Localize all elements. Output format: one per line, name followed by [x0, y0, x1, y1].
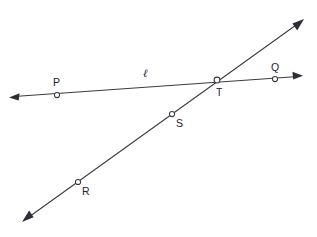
line-rst-arrowhead-lower-left: [22, 210, 34, 222]
line-label-l: ℓ: [143, 67, 148, 79]
point-marker-q: [272, 76, 277, 81]
point-label-q: Q: [271, 61, 279, 73]
line-rst-arrowhead-upper-right: [292, 19, 304, 31]
point-marker-s: [169, 111, 174, 116]
line-rst-group: [22, 19, 304, 222]
point-label-t: T: [216, 86, 223, 98]
point-label-r: R: [82, 185, 90, 197]
line-l-arrowhead-right: [292, 72, 303, 80]
geometry-diagram-canvas: P Q T S R ℓ: [0, 0, 317, 237]
point-marker-t: [214, 77, 220, 83]
line-l-arrowhead-left: [9, 93, 20, 100]
point-label-p: P: [53, 76, 60, 88]
point-label-s: S: [176, 117, 183, 129]
point-marker-r: [75, 179, 80, 184]
point-marker-p: [54, 92, 59, 97]
line-rst-segment: [28, 23, 299, 218]
geometry-figure: P Q T S R ℓ: [0, 0, 317, 237]
